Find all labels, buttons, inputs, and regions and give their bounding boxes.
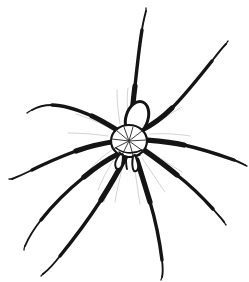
pedipalps	[115, 154, 138, 171]
chelicera-center	[126, 157, 127, 169]
spider-illustration: Black ink line drawing of a long-legged …	[0, 0, 249, 282]
illustration-canvas: Black ink line drawing of a long-legged …	[0, 0, 249, 282]
cephalothorax	[111, 125, 147, 157]
